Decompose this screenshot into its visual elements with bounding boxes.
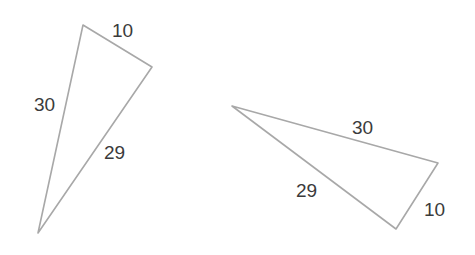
triangle-right-label-10: 10: [424, 200, 445, 219]
triangles-svg: [0, 0, 475, 255]
triangle-right-outline: [232, 106, 438, 229]
triangle-right-label-29: 29: [296, 181, 317, 200]
triangle-left-label-30: 30: [34, 95, 55, 114]
triangle-right-label-30: 30: [352, 118, 373, 137]
triangle-left-outline: [38, 25, 152, 233]
triangle-left-label-29: 29: [104, 143, 125, 162]
triangle-left-label-10: 10: [112, 21, 133, 40]
geometry-figure-canvas: 10 30 29 30 29 10: [0, 0, 475, 255]
